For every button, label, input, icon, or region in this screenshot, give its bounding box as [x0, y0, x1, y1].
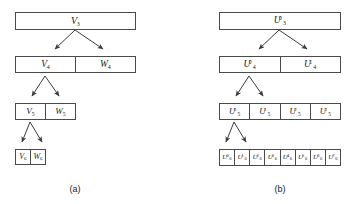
box-u4-0-label: U04	[243, 60, 256, 70]
panel-a-level-3-row: V3	[15, 12, 136, 30]
box-v3-label: V3	[71, 16, 80, 26]
box-u5-2: U25	[280, 104, 310, 119]
panel-a-arrows	[0, 0, 178, 204]
panel-b-arrows	[178, 0, 356, 204]
box-u4-1: U14	[280, 57, 341, 72]
box-w4-label: W4	[100, 60, 111, 70]
arrow-u3-0-to-u4-1	[279, 30, 307, 49]
box-u5-0: U05	[220, 104, 249, 119]
panel-a-level-6-row: V6 W6	[15, 149, 46, 165]
box-v5-label: V5	[26, 107, 34, 116]
panel-b-level-4-row: U04 U14	[219, 56, 341, 73]
box-u5-1: U15	[249, 104, 279, 119]
box-u3-0-label: U03	[274, 16, 287, 26]
box-u5-3: U35	[310, 104, 340, 119]
box-u3-0: U03	[220, 13, 340, 29]
box-v6: V6	[16, 150, 30, 164]
box-u6-2: U26	[249, 150, 264, 165]
box-v4: V4	[16, 57, 75, 72]
panel-a-level-5-row: V5 W5	[15, 103, 76, 120]
box-u6-7-label: U76	[328, 154, 338, 161]
arrow-v4-to-w5	[45, 76, 59, 96]
box-u6-2-label: U26	[253, 154, 263, 161]
figure-canvas: V3 V4 W4 V5	[0, 0, 356, 204]
box-u5-2-label: U25	[290, 107, 301, 116]
box-u4-0: U04	[220, 57, 280, 72]
box-u6-6: U66	[310, 150, 325, 165]
box-u6-5: U56	[295, 150, 310, 165]
arrow-v3-to-v4	[55, 30, 75, 49]
arrow-v4-to-v5	[32, 76, 45, 96]
panel-a-level-4-row: V4 W4	[15, 56, 136, 73]
panel-b: U03 U04 U14 U05	[178, 0, 356, 204]
arrow-v5-to-w6	[30, 122, 42, 142]
box-u6-3: U36	[264, 150, 279, 165]
box-v6-label: V6	[19, 153, 26, 161]
panel-b-level-5-row: U05 U15 U25 U35	[219, 103, 341, 120]
box-u6-1: U16	[234, 150, 249, 165]
panel-a: V3 V4 W4 V5	[0, 0, 178, 204]
arrow-v5-to-v6	[22, 122, 30, 142]
box-v3: V3	[16, 13, 135, 29]
box-u6-4: U46	[280, 150, 295, 165]
arrow-u4-0-to-u5-1	[249, 76, 263, 96]
panel-a-caption: (a)	[55, 184, 95, 194]
box-u6-0-label: U06	[222, 154, 232, 161]
box-u5-1-label: U15	[259, 107, 270, 116]
box-v5: V5	[16, 104, 45, 119]
box-w4: W4	[75, 57, 135, 72]
panel-b-level-3-row: U03	[219, 12, 341, 30]
box-u6-3-label: U36	[268, 154, 278, 161]
panel-b-caption: (b)	[260, 184, 300, 194]
box-u5-0-label: U05	[229, 107, 240, 116]
box-w6: W6	[30, 150, 45, 164]
box-u6-1-label: U16	[237, 154, 247, 161]
box-v4-label: V4	[41, 60, 50, 70]
panel-b-level-6-row: U06 U16 U26 U36 U46	[219, 149, 341, 166]
box-w5: W5	[45, 104, 75, 119]
box-u5-3-label: U35	[320, 107, 331, 116]
arrow-u5-0-to-u6-0	[226, 122, 234, 142]
arrow-u5-0-to-u6-1	[234, 122, 246, 142]
arrow-v3-to-w4	[75, 30, 103, 49]
box-w5-label: W5	[55, 107, 65, 116]
box-u6-7: U76	[325, 150, 340, 165]
box-u6-0: U06	[220, 150, 234, 165]
arrow-u3-0-to-u4-0	[259, 30, 279, 49]
box-u6-5-label: U56	[298, 154, 308, 161]
box-w6-label: W6	[33, 153, 42, 161]
box-u6-6-label: U66	[313, 154, 323, 161]
box-u4-1-label: U14	[304, 60, 317, 70]
arrow-u4-0-to-u5-0	[236, 76, 249, 96]
box-u6-4-label: U46	[283, 154, 293, 161]
